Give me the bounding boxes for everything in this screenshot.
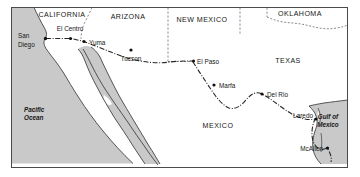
city-label-mcallen: McAllen	[300, 145, 323, 152]
water-label-pacific-ocean-line2: Ocean	[24, 114, 43, 121]
water-label-gulf-of-mexico-line2: Mexico	[317, 121, 339, 128]
region-label-texas: TEXAS	[275, 57, 301, 65]
water-label-gulf-of-mexico-line1: Gulf of	[318, 113, 339, 120]
city-dot-yuma	[82, 40, 85, 43]
city-dot-tucson	[129, 48, 132, 51]
city-label-del-rio: Del Rio	[267, 91, 288, 98]
water-label-pacific-ocean-line1: Pacific	[24, 106, 45, 113]
region-label-mexico: MEXICO	[203, 122, 234, 130]
city-dot-san-diego	[44, 37, 47, 40]
city-dot-del-rio	[260, 92, 263, 95]
region-label-new-mexico: NEW MEXICO	[176, 16, 227, 24]
city-label-laredo: Laredo	[293, 112, 313, 119]
city-label-el-centro: El Centro	[57, 25, 84, 32]
city-label-el-paso: El Paso	[197, 58, 219, 65]
city-dot-el-centro	[69, 37, 72, 40]
map-canvas: CALIFORNIA ARIZONA NEW MEXICO OKLAHOMA T…	[0, 0, 360, 177]
city-label-san-diego-line2: Diego	[18, 41, 35, 49]
city-label-san-diego-line1: San	[18, 32, 30, 39]
border-region-map: CALIFORNIA ARIZONA NEW MEXICO OKLAHOMA T…	[0, 0, 360, 177]
city-label-marfa: Marfa	[219, 82, 236, 89]
region-label-oklahoma: OKLAHOMA	[278, 10, 322, 18]
region-label-california: CALIFORNIA	[38, 11, 85, 19]
city-label-yuma: Yuma	[89, 39, 106, 46]
city-dot-el-paso	[192, 59, 195, 62]
city-dot-marfa	[212, 83, 215, 86]
city-label-tucson: Tucson	[121, 55, 142, 62]
region-label-arizona: ARIZONA	[111, 13, 146, 21]
city-dot-mcallen	[326, 146, 329, 149]
